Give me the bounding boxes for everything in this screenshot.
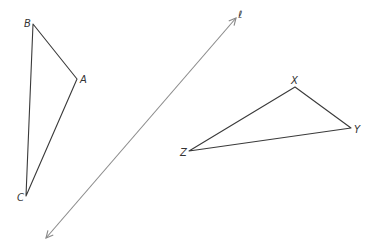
triangle-xyz xyxy=(189,87,351,151)
line-l-label: ℓ xyxy=(238,9,242,20)
vertex-b-label: B xyxy=(24,18,31,29)
triangle-abc xyxy=(26,24,77,196)
line-l xyxy=(46,18,236,238)
vertex-y-label: Y xyxy=(354,124,361,135)
vertex-z-label: Z xyxy=(179,147,188,158)
geometry-diagram: ℓ B A C X Y Z xyxy=(0,0,377,250)
vertex-c-label: C xyxy=(17,192,24,203)
vertex-x-label: X xyxy=(290,75,299,86)
vertex-a-label: A xyxy=(79,74,87,85)
